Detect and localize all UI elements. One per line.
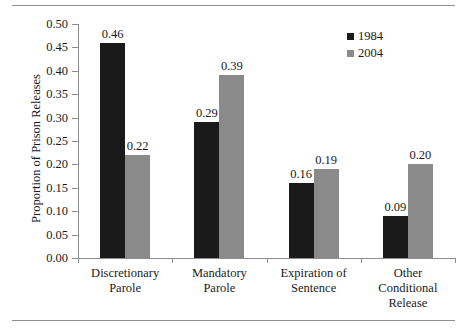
figure-bar-chart: Proportion of Prison Releases 0.000.050.…	[0, 0, 467, 330]
figure-top-rule	[12, 5, 455, 6]
x-axis-category-label: Mandatory Parole	[192, 266, 247, 296]
bar-value-label: 0.16	[290, 168, 312, 181]
x-axis-tick	[361, 258, 362, 263]
bar-value-label: 0.19	[315, 154, 337, 167]
x-axis-tick	[267, 258, 268, 263]
bar-value-label: 0.29	[196, 107, 218, 120]
y-axis-tick-label: 0.35	[28, 88, 68, 101]
y-axis-tick-label: 0.00	[28, 252, 68, 265]
bar-value-label: 0.22	[127, 140, 149, 153]
square-swatch-icon	[347, 33, 354, 40]
y-axis-tick-label: 0.05	[28, 228, 68, 241]
x-axis-category-label: Expiration of Sentence	[280, 266, 346, 296]
bar-2004-3	[314, 169, 339, 258]
x-axis-category-label: Discretionary Parole	[91, 266, 159, 296]
bar-2004-4	[408, 164, 433, 258]
legend-item-label: 1984	[358, 30, 383, 43]
bar-1984-4	[383, 216, 408, 258]
x-axis-tick	[78, 258, 79, 263]
square-swatch-icon	[347, 50, 354, 57]
bar-value-label: 0.20	[409, 149, 431, 162]
bar-value-label: 0.39	[221, 60, 243, 73]
legend-item-2004: 2004	[347, 46, 383, 61]
bar-2004-1	[125, 155, 150, 258]
bar-1984-1	[100, 43, 125, 258]
legend-item-1984: 1984	[347, 29, 383, 44]
bar-1984-2	[194, 122, 219, 258]
bar-1984-3	[289, 183, 314, 258]
bar-value-label: 0.09	[384, 201, 406, 214]
y-axis-tick-label: 0.25	[28, 135, 68, 148]
x-axis-category-label: Other Conditional Release	[378, 266, 437, 311]
y-axis-tick-label: 0.40	[28, 65, 68, 78]
y-axis-tick-label: 0.15	[28, 182, 68, 195]
plot-area: 0.460.220.290.390.160.190.090.20	[78, 24, 455, 258]
y-axis-tick-label: 0.45	[28, 41, 68, 54]
y-axis-tick-label: 0.20	[28, 158, 68, 171]
y-axis-tick-label: 0.10	[28, 205, 68, 218]
bar-2004-2	[219, 75, 244, 258]
x-axis-tick	[455, 258, 456, 263]
y-axis-tick-label: 0.50	[28, 18, 68, 31]
x-axis-tick	[172, 258, 173, 263]
legend-item-label: 2004	[358, 47, 383, 60]
bar-value-label: 0.46	[102, 28, 124, 41]
y-axis-tick-label: 0.30	[28, 111, 68, 124]
chart-legend: 19842004	[347, 29, 383, 63]
figure-bottom-rule	[12, 320, 455, 321]
